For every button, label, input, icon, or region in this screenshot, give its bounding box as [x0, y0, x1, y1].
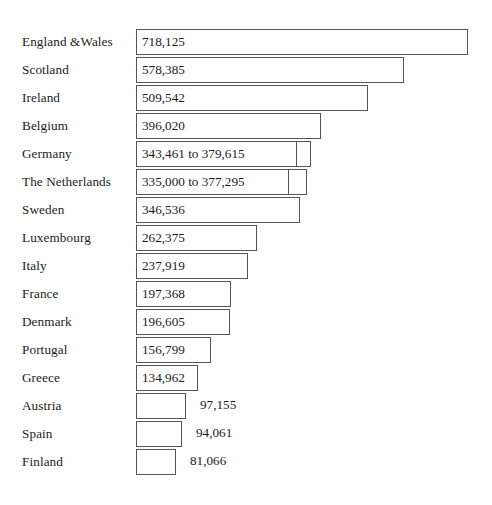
bar-wrapper: 343,461 to 379,615 — [136, 141, 311, 167]
category-label: Scotland — [0, 56, 120, 84]
bar-value-label: 578,385 — [142, 57, 185, 83]
bar-value-label: 97,155 — [200, 392, 236, 418]
chart-plot-area: England &Wales718,125Scotland578,385Irel… — [0, 0, 492, 505]
bar-wrapper: 134,962 — [136, 365, 198, 391]
bar-row: Greece134,962 — [0, 364, 492, 392]
bar-wrapper: 196,605 — [136, 309, 230, 335]
bar-value-label: 396,020 — [142, 113, 185, 139]
bar-wrapper: 156,799 — [136, 337, 211, 363]
bar-value-label: 81,066 — [190, 448, 226, 474]
bar-row: England &Wales718,125 — [0, 28, 492, 56]
bar-wrapper: 237,919 — [136, 253, 248, 279]
bar-value-label: 262,375 — [142, 225, 185, 251]
bar-value-label: 346,536 — [142, 197, 185, 223]
bar-row: Finland81,066 — [0, 448, 492, 476]
bar-wrapper — [136, 421, 182, 447]
bar-row: Germany343,461 to 379,615 — [0, 140, 492, 168]
bar — [136, 393, 186, 419]
bar-value-label: 134,962 — [142, 365, 185, 391]
category-label: Sweden — [0, 196, 120, 224]
bar-value-label: 156,799 — [142, 337, 185, 363]
bar-row: Scotland578,385 — [0, 56, 492, 84]
bar-value-label: 509,542 — [142, 85, 185, 111]
bar-row: Sweden346,536 — [0, 196, 492, 224]
bar-row: Denmark196,605 — [0, 308, 492, 336]
bar-wrapper — [136, 393, 186, 419]
bar-row: Belgium396,020 — [0, 112, 492, 140]
bar-row: Austria97,155 — [0, 392, 492, 420]
bar-value-label: 197,368 — [142, 281, 185, 307]
bar-wrapper: 335,000 to 377,295 — [136, 169, 307, 195]
bar-row: Luxembourg262,375 — [0, 224, 492, 252]
bar — [136, 29, 468, 55]
bar-value-label: 718,125 — [142, 29, 185, 55]
bar-value-label: 335,000 to 377,295 — [142, 169, 245, 195]
bar-row: Portugal156,799 — [0, 336, 492, 364]
bar-wrapper: 718,125 — [136, 29, 468, 55]
bar-wrapper — [136, 449, 176, 475]
bar-wrapper: 509,542 — [136, 85, 368, 111]
bar-row: Ireland509,542 — [0, 84, 492, 112]
bar-value-label: 94,061 — [196, 420, 232, 446]
bar-value-label: 196,605 — [142, 309, 185, 335]
bar-wrapper: 197,368 — [136, 281, 231, 307]
bar-row: Italy237,919 — [0, 252, 492, 280]
range-min-marker — [288, 169, 289, 195]
category-label: Austria — [0, 392, 120, 420]
bar-wrapper: 262,375 — [136, 225, 257, 251]
bar-value-label: 237,919 — [142, 253, 185, 279]
bar-value-label: 343,461 to 379,615 — [142, 141, 245, 167]
category-label: Finland — [0, 448, 120, 476]
category-label: The Netherlands — [0, 168, 120, 196]
bar-wrapper: 346,536 — [136, 197, 300, 223]
category-label: Greece — [0, 364, 120, 392]
category-label: Ireland — [0, 84, 120, 112]
bar-row: France197,368 — [0, 280, 492, 308]
bar-wrapper: 396,020 — [136, 113, 321, 139]
category-label: Italy — [0, 252, 120, 280]
category-label: Luxembourg — [0, 224, 120, 252]
bar-row: The Netherlands335,000 to 377,295 — [0, 168, 492, 196]
bar-chart: England &Wales718,125Scotland578,385Irel… — [0, 0, 492, 505]
range-min-marker — [296, 141, 297, 167]
bar — [136, 449, 176, 475]
category-label: Spain — [0, 420, 120, 448]
category-label: Portugal — [0, 336, 120, 364]
bar-wrapper: 578,385 — [136, 57, 404, 83]
bar — [136, 421, 182, 447]
category-label: Germany — [0, 140, 120, 168]
category-label: France — [0, 280, 120, 308]
category-label: Denmark — [0, 308, 120, 336]
bar-row: Spain94,061 — [0, 420, 492, 448]
category-label: Belgium — [0, 112, 120, 140]
category-label: England &Wales — [0, 28, 120, 56]
